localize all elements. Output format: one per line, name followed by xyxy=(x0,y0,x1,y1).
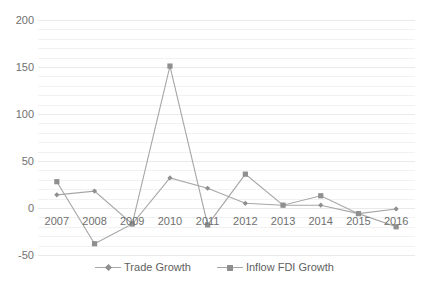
x-tick-label: 2010 xyxy=(150,216,190,227)
y-tick-label: -50 xyxy=(0,250,34,261)
data-point-marker xyxy=(92,241,97,246)
legend-marker-diamond-icon xyxy=(95,263,121,273)
legend-marker-square-icon xyxy=(217,263,243,273)
data-point-marker xyxy=(54,192,59,197)
x-tick-label: 2013 xyxy=(263,216,303,227)
x-tick-label: 2011 xyxy=(188,216,228,227)
data-point-marker xyxy=(205,186,210,191)
data-point-marker xyxy=(167,63,172,68)
data-point-marker xyxy=(280,203,285,208)
x-tick-label: 2007 xyxy=(37,216,77,227)
data-point-marker xyxy=(243,201,248,206)
y-tick-label: 100 xyxy=(0,109,34,120)
y-tick-label: 150 xyxy=(0,62,34,73)
y-tick-label: 200 xyxy=(0,15,34,26)
line-chart: 200150100500-50 200720082009201020112012… xyxy=(0,0,429,295)
data-point-marker xyxy=(394,206,399,211)
data-point-marker xyxy=(318,203,323,208)
x-tick-label: 2015 xyxy=(338,216,378,227)
x-tick-label: 2012 xyxy=(225,216,265,227)
x-tick-label: 2009 xyxy=(112,216,152,227)
x-tick-label: 2008 xyxy=(75,216,115,227)
data-point-marker xyxy=(243,172,248,177)
data-point-marker xyxy=(54,179,59,184)
y-tick-label: 50 xyxy=(0,156,34,167)
data-point-marker xyxy=(318,193,323,198)
gridline-major xyxy=(38,255,415,256)
y-tick-label: 0 xyxy=(0,203,34,214)
legend-label: Inflow FDI Growth xyxy=(246,262,334,273)
legend-label: Trade Growth xyxy=(124,262,191,273)
legend-item-inflow-fdi-growth: Inflow FDI Growth xyxy=(217,262,334,273)
legend-item-trade-growth: Trade Growth xyxy=(95,262,191,273)
x-tick-label: 2016 xyxy=(376,216,416,227)
x-tick-label: 2014 xyxy=(301,216,341,227)
chart-legend: Trade Growth Inflow FDI Growth xyxy=(0,262,429,273)
